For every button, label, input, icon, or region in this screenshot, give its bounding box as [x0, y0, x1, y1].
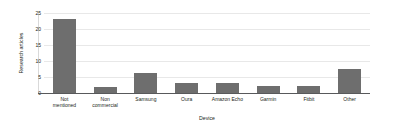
x-axis-tick-label: Fitbit — [289, 96, 330, 108]
bar-slot — [126, 13, 167, 93]
y-axis-tick-label: 20 — [35, 27, 41, 32]
bar-slot — [85, 13, 126, 93]
bar-slot — [44, 13, 85, 93]
bar[interactable] — [338, 69, 361, 93]
plot-area: 0510152025 — [44, 13, 370, 93]
x-axis-tick-label: Garmin — [248, 96, 289, 108]
bar[interactable] — [257, 86, 280, 93]
bar-slot — [166, 13, 207, 93]
x-axis-tick-label: Oura — [166, 96, 207, 108]
x-axis-tick-label: Other — [329, 96, 370, 108]
x-axis-tick-label: Amazon Echo — [207, 96, 248, 108]
x-axis-tick-labels: Not mentionedNon commercialSamsungOuraAm… — [44, 96, 370, 108]
y-axis-title: Research articles — [14, 8, 28, 98]
bar-slot — [329, 13, 370, 93]
x-axis-line — [38, 93, 370, 94]
x-axis-title: Device — [44, 115, 370, 121]
bar-slot — [289, 13, 330, 93]
y-axis-tick-label: 5 — [38, 75, 41, 80]
bar[interactable] — [297, 86, 320, 93]
bar[interactable] — [175, 83, 198, 93]
y-axis-tick-label: 25 — [35, 11, 41, 16]
x-axis-tick-label: Samsung — [126, 96, 167, 108]
bar[interactable] — [53, 19, 76, 93]
bar[interactable] — [216, 83, 239, 93]
y-axis-tick-label: 10 — [35, 59, 41, 64]
x-axis-tick-label: Not mentioned — [44, 96, 85, 108]
y-axis-tick-label: 15 — [35, 43, 41, 48]
bar-slot — [248, 13, 289, 93]
bar[interactable] — [134, 73, 157, 93]
x-axis-tick-label: Non commercial — [85, 96, 126, 108]
bar-series — [44, 13, 370, 93]
bar-chart: Research articles 0510152025 Not mention… — [0, 0, 394, 133]
bar-slot — [207, 13, 248, 93]
